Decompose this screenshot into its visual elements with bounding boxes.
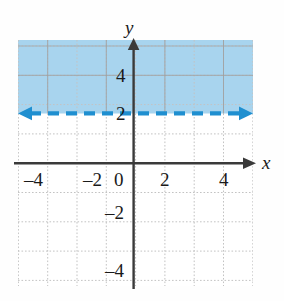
x-tick-label-pos4: 4 — [219, 170, 229, 189]
x-tick-label-neg4: –4 — [24, 170, 43, 189]
graph-figure: y x –4 –2 0 2 4 4 2 –2 –4 — [0, 0, 284, 301]
y-tick-label-neg2: –2 — [105, 203, 124, 222]
y-tick-label-pos2: 2 — [116, 104, 126, 123]
x-tick-label-pos2: 2 — [160, 170, 170, 189]
y-tick-label-pos4: 4 — [116, 66, 126, 85]
x-axis-label: x — [262, 153, 270, 172]
x-tick-label-neg2: –2 — [83, 170, 102, 189]
y-tick-label-neg4: –4 — [105, 261, 124, 280]
coordinate-plane-svg — [0, 0, 284, 301]
y-axis-label: y — [125, 18, 133, 37]
x-tick-label-zero: 0 — [114, 170, 124, 189]
